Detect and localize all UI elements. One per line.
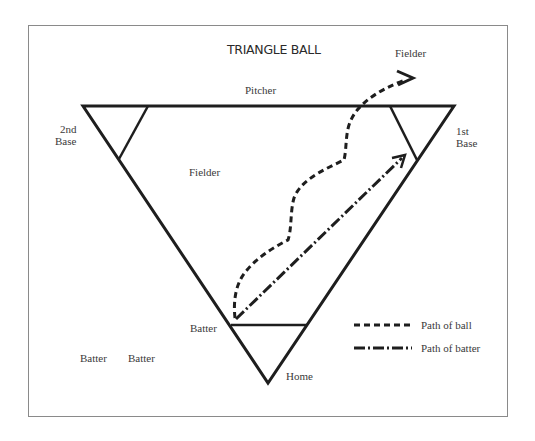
label-first-base-1: 1st — [456, 125, 469, 137]
label-second-base-2: Base — [55, 135, 76, 147]
legend-batter-label: Path of batter — [421, 342, 480, 354]
batter-path — [236, 158, 402, 319]
label-batter-waiting-2: Batter — [128, 352, 155, 364]
triangle-field-diagram — [0, 0, 535, 441]
legend-ball-label: Path of ball — [421, 319, 472, 331]
ball-path-arrowhead — [397, 71, 413, 85]
label-fielder-outfield: Fielder — [395, 47, 426, 59]
first-base-line — [390, 106, 417, 160]
label-fielder-infield: Fielder — [189, 166, 220, 178]
diagram-title: TRIANGLE BALL — [227, 42, 321, 57]
label-first-base-2: Base — [456, 137, 477, 149]
field-triangle — [83, 106, 454, 383]
ball-path — [234, 80, 405, 318]
label-batter-at-plate: Batter — [190, 322, 217, 334]
label-second-base-1: 2nd — [60, 123, 77, 135]
label-batter-waiting-1: Batter — [80, 352, 107, 364]
second-base-line — [119, 106, 148, 159]
label-home: Home — [286, 370, 313, 382]
label-pitcher: Pitcher — [245, 84, 276, 96]
